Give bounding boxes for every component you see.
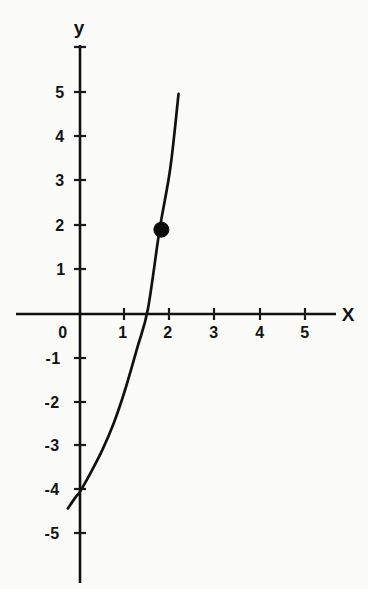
exponential-function-plot: 0 1 2 3 4 5 5 4 3 2 1 -1 -2 -3 -4 -5 X y [0, 0, 368, 589]
y-axis-label: y [74, 17, 85, 38]
y-tick-label-neg3: -3 [44, 437, 59, 454]
x-tick-label-0: 0 [58, 324, 67, 341]
y-tick-label-neg4: -4 [44, 481, 59, 498]
y-tick-label-neg1: -1 [45, 350, 60, 367]
y-tick-label-1: 1 [56, 261, 65, 278]
x-tick-label-4: 4 [255, 324, 264, 341]
x-tick-labels: 0 1 2 3 4 5 [58, 324, 309, 341]
x-tick-label-3: 3 [209, 324, 218, 341]
x-tick-label-5: 5 [300, 324, 309, 341]
x-axis-label: X [342, 304, 355, 325]
x-tick-label-2: 2 [163, 324, 172, 341]
x-tick-label-1: 1 [118, 324, 127, 341]
exponential-curve [68, 94, 179, 509]
y-tick-label-3: 3 [55, 172, 64, 189]
y-tick-label-4: 4 [55, 128, 64, 145]
y-tick-label-2: 2 [55, 217, 64, 234]
highlighted-point-marker [154, 222, 169, 237]
y-tick-label-neg2: -2 [44, 394, 59, 411]
y-tick-label-5: 5 [55, 84, 64, 101]
y-tick-label-neg5: -5 [44, 525, 59, 542]
